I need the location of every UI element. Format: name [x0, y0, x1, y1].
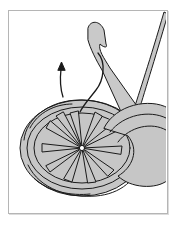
arrow-up-icon	[58, 62, 65, 97]
crochet-illustration	[0, 0, 179, 225]
